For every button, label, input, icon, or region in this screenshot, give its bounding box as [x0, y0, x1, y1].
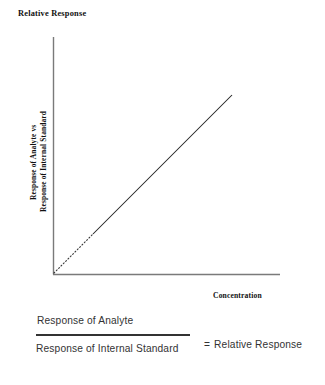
relative-response-equation: Response of Analyte Response of Internal… — [0, 314, 325, 385]
equation-result-label: Relative Response — [214, 339, 302, 350]
fraction: Response of Analyte Response of Internal… — [36, 314, 192, 356]
calibration-line-solid — [93, 95, 232, 234]
fraction-bar — [36, 334, 190, 336]
equals-sign: = — [204, 339, 210, 350]
calibration-plot — [0, 0, 325, 312]
fraction-denominator: Response of Internal Standard — [36, 342, 192, 356]
x-axis-label: Concentration — [213, 291, 262, 300]
calibration-line-dotted — [54, 234, 93, 273]
equation-result: =Relative Response — [204, 339, 302, 350]
fraction-numerator: Response of Analyte — [36, 314, 192, 328]
figure-root: Relative Response Response of Analyte vs… — [0, 0, 325, 385]
